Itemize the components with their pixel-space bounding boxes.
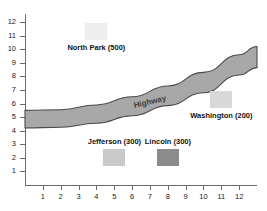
marker-label-lincoln: Lincoln (300) (145, 138, 191, 146)
x-tick-label-11: 11 (213, 193, 229, 201)
y-axis-line (25, 14, 26, 186)
x-tick-2 (61, 186, 62, 190)
marker-label-jefferson: Jefferson (300) (88, 138, 141, 146)
marker-label-washington: Washington (200) (190, 112, 252, 120)
y-tick-12 (20, 22, 25, 23)
y-tick-label-4: 4 (0, 127, 16, 135)
y-tick-label-1: 1 (0, 167, 16, 175)
y-tick-11 (20, 36, 25, 37)
marker-square-washington[interactable] (210, 91, 232, 108)
x-tick-label-10: 10 (195, 193, 211, 201)
highway-scatter-chart: 121110987654321 123456789101112 Highway … (0, 0, 267, 211)
y-tick-label-7: 7 (0, 86, 16, 94)
marker-label-north-park: North Park (500) (67, 44, 125, 52)
x-tick-label-8: 8 (160, 193, 176, 201)
x-tick-8 (168, 186, 169, 190)
marker-square-north-park[interactable] (85, 23, 107, 40)
marker-square-lincoln[interactable] (157, 149, 179, 166)
y-tick-label-12: 12 (0, 18, 16, 26)
y-tick-label-10: 10 (0, 45, 16, 53)
y-tick-label-11: 11 (0, 32, 16, 40)
x-tick-4 (96, 186, 97, 190)
y-tick-9 (20, 63, 25, 64)
y-tick-5 (20, 117, 25, 118)
highway-band-label: Highway (133, 95, 167, 110)
x-tick-label-5: 5 (106, 193, 122, 201)
x-tick-label-1: 1 (35, 193, 51, 201)
x-tick-label-7: 7 (142, 193, 158, 201)
x-tick-label-6: 6 (124, 193, 140, 201)
y-tick-3 (20, 144, 25, 145)
x-tick-7 (150, 186, 151, 190)
x-tick-3 (79, 186, 80, 190)
y-tick-label-5: 5 (0, 113, 16, 121)
x-tick-label-9: 9 (178, 193, 194, 201)
y-tick-label-8: 8 (0, 72, 16, 80)
x-tick-1 (43, 186, 44, 190)
y-tick-label-2: 2 (0, 154, 16, 162)
x-tick-label-12: 12 (231, 193, 247, 201)
y-tick-label-9: 9 (0, 59, 16, 67)
x-tick-9 (186, 186, 187, 190)
y-tick-7 (20, 90, 25, 91)
marker-square-jefferson[interactable] (103, 149, 125, 166)
x-tick-label-3: 3 (71, 193, 87, 201)
y-tick-label-6: 6 (0, 100, 16, 108)
x-tick-6 (132, 186, 133, 190)
y-tick-6 (20, 104, 25, 105)
y-tick-8 (20, 76, 25, 77)
y-tick-label-3: 3 (0, 140, 16, 148)
y-tick-2 (20, 158, 25, 159)
x-tick-12 (239, 186, 240, 190)
y-tick-1 (20, 171, 25, 172)
x-tick-10 (203, 186, 204, 190)
y-tick-4 (20, 131, 25, 132)
x-tick-5 (114, 186, 115, 190)
x-tick-11 (221, 186, 222, 190)
y-tick-10 (20, 49, 25, 50)
x-tick-label-4: 4 (88, 193, 104, 201)
x-tick-label-2: 2 (53, 193, 69, 201)
